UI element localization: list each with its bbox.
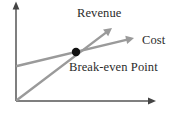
break-even-point-marker: [72, 48, 80, 56]
cost-label: Cost: [142, 34, 165, 47]
revenue-label: Revenue: [77, 7, 121, 20]
break-even-diagram: Revenue Cost Break-even Point: [0, 0, 171, 113]
break-even-point-label: Break-even Point: [69, 61, 158, 74]
